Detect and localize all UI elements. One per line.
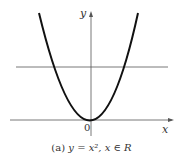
origin-label: 0: [84, 122, 90, 133]
graph: [0, 0, 183, 164]
caption-label: (a): [51, 142, 65, 153]
y-axis-label: y: [80, 7, 86, 20]
x-axis-label: x: [162, 123, 168, 136]
x-axis-arrow-icon: [168, 118, 174, 122]
y-axis-arrow-icon: [89, 11, 93, 17]
caption: (a) y = x², x ∈ R: [0, 142, 183, 153]
caption-equation: y = x², x ∈ R: [68, 142, 131, 153]
